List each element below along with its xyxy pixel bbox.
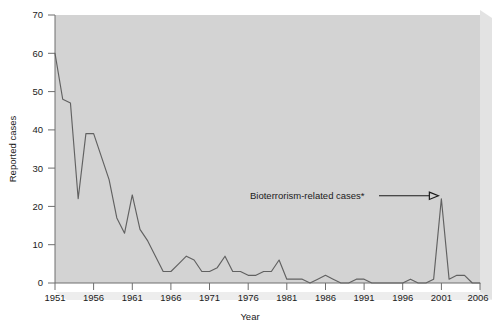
y-axis-tick-labels: 0 10 20 30 40 50 60 70 [32,9,43,288]
figure-bottom-shadow [55,292,492,300]
y-tick-label: 30 [32,163,43,174]
x-tick-label: 1956 [83,292,104,303]
y-tick-label: 10 [32,239,43,250]
x-axis-title: Year [240,311,259,322]
plot-area-background [55,15,480,283]
y-tick-label: 20 [32,201,43,212]
x-tick-label: 1976 [238,292,259,303]
x-tick-label: 1981 [276,292,297,303]
y-tick-label: 60 [32,48,43,59]
x-tick-label: 1966 [160,292,181,303]
x-tick-label: 2001 [431,292,452,303]
x-tick-label: 1971 [199,292,220,303]
y-tick-label: 50 [32,86,43,97]
x-axis-ticks [55,283,480,290]
x-tick-label: 1961 [122,292,143,303]
x-tick-label: 1991 [354,292,375,303]
x-tick-label: 1986 [315,292,336,303]
x-tick-label: 1951 [44,292,65,303]
y-tick-label: 70 [32,9,43,20]
y-tick-label: 40 [32,124,43,135]
y-axis-title: Reported cases [7,115,18,182]
annotation-label: Bioterrorism-related cases* [250,190,365,201]
reported-cases-line-chart: 0 10 20 30 40 50 60 70 1951 1956 [0,0,499,328]
y-axis-ticks [48,15,55,283]
figure-right-shadow [480,10,492,300]
y-tick-label: 0 [38,277,43,288]
chart-figure: 0 10 20 30 40 50 60 70 1951 1956 [0,0,499,328]
x-tick-label: 1996 [392,292,413,303]
x-tick-label: 2006 [467,292,488,303]
